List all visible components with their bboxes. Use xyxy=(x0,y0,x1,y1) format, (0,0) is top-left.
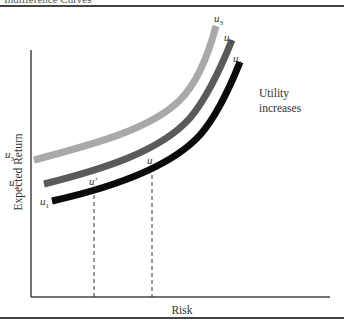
label-u1-right: u1 xyxy=(233,52,243,67)
x-axis-label: Risk xyxy=(171,304,192,316)
label-u3-right: u3 xyxy=(214,12,224,27)
annotation-utility: Utility xyxy=(259,87,289,100)
y-axis-label: Expected Return xyxy=(12,133,25,210)
label-u1-left: u1 xyxy=(40,195,50,210)
curve-u3 xyxy=(34,26,216,160)
label-u: u xyxy=(147,154,153,166)
indifference-curve-diagram: u3 u2 u1 u3 u2 u1 u′ u Utility increases… xyxy=(0,0,344,322)
annotation-increases: increases xyxy=(259,102,302,114)
label-u-prime: u′ xyxy=(89,175,98,187)
label-u2-right: u2 xyxy=(224,31,234,46)
